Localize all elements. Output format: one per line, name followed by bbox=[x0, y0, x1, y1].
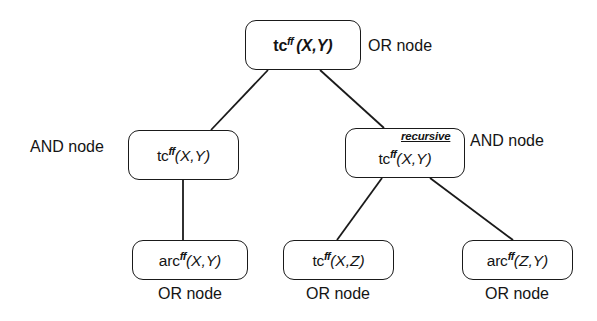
node-leaf-tc-xz[interactable]: tcff(X,Z) bbox=[283, 240, 394, 280]
node-and-left-args: (X,Y) bbox=[175, 147, 210, 164]
node-leaf-arc-xy-predicate: arc bbox=[159, 252, 180, 269]
node-root-tc[interactable]: tcff(X,Y) bbox=[245, 20, 361, 70]
node-leaf-arc-zy[interactable]: arcff(Z,Y) bbox=[462, 240, 573, 280]
edge-and-right-to-tc-xz bbox=[337, 178, 382, 240]
node-leaf-arc-xy-label: arcff(X,Y) bbox=[159, 251, 221, 269]
edge-root-to-and-right bbox=[320, 70, 384, 128]
node-and-right-label: tcff(X,Y) bbox=[378, 149, 431, 167]
edge-and-right-to-arc-zy bbox=[430, 178, 513, 240]
node-and-right-args: (X,Y) bbox=[396, 150, 431, 167]
node-and-left-predicate: tc bbox=[157, 147, 169, 164]
node-leaf-tc-xz-label: tcff(X,Z) bbox=[312, 251, 364, 269]
caption-and-left: AND node bbox=[30, 139, 104, 155]
caption-root-or-node: OR node bbox=[368, 38, 432, 54]
node-leaf-arc-xy[interactable]: arcff(X,Y) bbox=[132, 240, 248, 280]
node-leaf-arc-zy-predicate: arc bbox=[487, 252, 508, 269]
node-leaf-tc-xz-args: (X,Z) bbox=[330, 252, 364, 269]
node-leaf-arc-zy-label: arcff(Z,Y) bbox=[487, 251, 549, 269]
node-root-predicate: tc bbox=[273, 37, 287, 54]
node-root-label: tcff(X,Y) bbox=[273, 36, 332, 54]
node-and-left-label: tcff(X,Y) bbox=[157, 146, 210, 164]
caption-and-right: AND node bbox=[470, 133, 544, 149]
node-root-superscript: ff bbox=[287, 35, 293, 47]
node-and-right-predicate: tc bbox=[378, 150, 390, 167]
node-leaf-arc-xy-args: (X,Y) bbox=[186, 252, 221, 269]
caption-leaf-arc-xy: OR node bbox=[148, 286, 232, 302]
caption-leaf-tc-xz: OR node bbox=[296, 286, 380, 302]
node-root-args: (X,Y) bbox=[296, 37, 332, 54]
recursive-annotation: recursive bbox=[401, 131, 450, 143]
node-leaf-arc-zy-args: (Z,Y) bbox=[514, 252, 548, 269]
edge-root-to-and-left bbox=[211, 70, 268, 130]
node-leaf-tc-xz-predicate: tc bbox=[312, 252, 324, 269]
node-and-left-tc[interactable]: tcff(X,Y) bbox=[128, 130, 239, 180]
caption-leaf-arc-zy: OR node bbox=[475, 286, 559, 302]
diagram-canvas: tcff(X,Y) OR node AND node tcff(X,Y) tcf… bbox=[0, 0, 597, 321]
